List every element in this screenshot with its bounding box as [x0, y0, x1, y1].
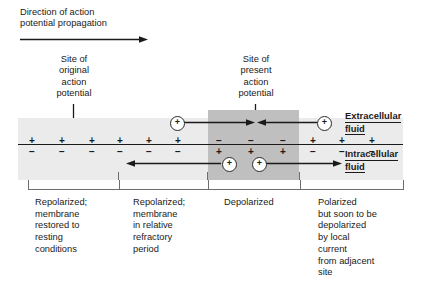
direction-heading-line2: potential propagation [20, 18, 200, 29]
intracellular-current-arrow-right-icon [266, 159, 342, 168]
caption-line: restored to [35, 220, 123, 232]
outer-charge: + [143, 136, 155, 146]
outer-charge: + [114, 136, 126, 146]
caption-line: Depolarized [224, 197, 309, 209]
callout-line: original [43, 65, 105, 76]
propagation-direction-arrow-icon [20, 35, 148, 44]
intracellular-fluid-label-line2: fluid [345, 161, 365, 174]
outer-charge: + [86, 136, 98, 146]
extracellular-fluid-label: Extracellular fluid [345, 110, 401, 135]
site-of-present-action-potential-label: Site of present action potential [225, 54, 287, 99]
caption-repolarized-refractory: Repolarized; membrane in relative refrac… [133, 197, 218, 256]
callout-line: potential [43, 88, 105, 99]
inner-charge: − [56, 147, 68, 157]
caption-line: depolarized [318, 220, 410, 232]
bracket-tick [299, 172, 300, 180]
ion-extracellular-right: + [317, 116, 332, 131]
extracellular-current-arrow-right-icon [257, 118, 317, 127]
outer-charge: − [245, 136, 257, 146]
caption-line: membrane [35, 209, 123, 221]
inner-charge: − [114, 147, 126, 157]
caption-line: Repolarized; [133, 197, 218, 209]
inner-charge: − [307, 147, 319, 157]
outer-charge: + [56, 136, 68, 146]
caption-line: membrane [133, 209, 218, 221]
bracket-depolarized [208, 180, 301, 190]
caption-line: conditions [35, 244, 123, 256]
caption-line: from adjacent [318, 256, 410, 268]
caption-line: refractory [133, 232, 218, 244]
caption-line: period [133, 244, 218, 256]
inner-charge: + [213, 147, 225, 157]
callout-line: present [225, 65, 287, 76]
action-potential-propagation-figure: Direction of action potential propagatio… [0, 0, 421, 290]
outer-charge: + [336, 136, 348, 146]
caption-line: in relative [133, 220, 218, 232]
caption-line: Repolarized; [35, 197, 123, 209]
inner-charge: + [277, 147, 289, 157]
outer-charge: + [172, 136, 184, 146]
callout-line: Site of [225, 54, 287, 65]
callout-line: action [225, 77, 287, 88]
intracellular-fluid-label-line1: Intracellular [345, 148, 398, 161]
caption-line: but soon to be [318, 209, 410, 221]
bracket-tick [207, 172, 208, 180]
inner-charge: − [26, 147, 38, 157]
extracellular-current-arrow-left-icon [183, 118, 255, 127]
caption-polarized-soon-depolarized: Polarized but soon to be depolarized by … [318, 197, 410, 279]
outer-charge: − [213, 136, 225, 146]
outer-charge: + [26, 136, 38, 146]
caption-line: Polarized [318, 197, 410, 209]
intracellular-current-arrow-left-icon [126, 159, 221, 168]
inner-charge: − [172, 147, 184, 157]
ion-extracellular-left: + [170, 116, 185, 131]
bracket-tick [118, 172, 119, 180]
extracellular-fluid-label-line1: Extracellular [345, 110, 401, 123]
ion-intracellular-left: + [222, 157, 237, 172]
inner-charge: − [143, 147, 155, 157]
bracket-polarized-soon-depolarized [300, 180, 404, 190]
inner-charge: − [86, 147, 98, 157]
caption-line: resting [35, 232, 123, 244]
extracellular-fluid-label-line2: fluid [345, 123, 365, 136]
site-of-original-action-potential-label: Site of original action potential [43, 54, 105, 99]
callout-line: Site of [43, 54, 105, 65]
caption-repolarized-resting: Repolarized; membrane restored to restin… [35, 197, 123, 256]
outer-charge: + [307, 136, 319, 146]
bracket-repolarized-resting [28, 180, 120, 190]
intracellular-fluid-label: Intracellular fluid [345, 148, 398, 173]
callout-line: potential [225, 88, 287, 99]
caption-line: current [318, 244, 410, 256]
bracket-repolarized-refractory [119, 180, 209, 190]
callout-line: action [43, 77, 105, 88]
caption-line: by local [318, 232, 410, 244]
direction-heading-line1: Direction of action [20, 7, 200, 18]
caption-line: site [318, 267, 410, 279]
outer-charge: − [277, 136, 289, 146]
caption-depolarized: Depolarized [224, 197, 309, 209]
ion-intracellular-right: + [252, 157, 267, 172]
inner-charge: + [245, 147, 257, 157]
direction-heading: Direction of action potential propagatio… [20, 7, 200, 30]
outer-charge: + [366, 136, 378, 146]
